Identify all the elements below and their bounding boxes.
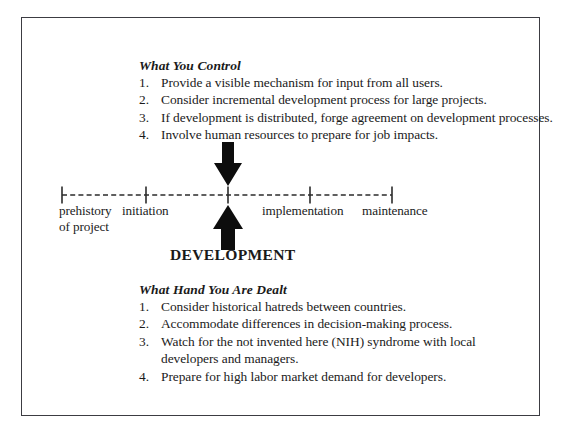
what-hand-you-are-dealt-block: What Hand You Are Dealt 1. Consider hist…	[139, 281, 561, 385]
what-you-control-heading: What You Control	[139, 57, 561, 74]
list-item-text: Involve human resources to prepare for j…	[161, 126, 561, 143]
list-item-text: Watch for the not invented here (NIH) sy…	[161, 333, 499, 368]
development-label: DEVELOPMENT	[170, 246, 295, 264]
list-item: 3. If development is distributed, forge …	[139, 109, 561, 126]
list-item-text: Consider historical hatreds between coun…	[161, 298, 561, 315]
what-hand-you-are-dealt-heading: What Hand You Are Dealt	[139, 281, 561, 298]
list-item-text: Provide a visible mechanism for input fr…	[161, 74, 561, 91]
list-item-text: Accommodate differences in decision-maki…	[161, 315, 561, 332]
timeline-label-prehistory-line2: of project	[59, 219, 111, 235]
list-item-number: 1.	[139, 74, 155, 91]
list-item: 4. Prepare for high labor market demand …	[139, 368, 561, 385]
what-hand-you-are-dealt-list: 1. Consider historical hatreds between c…	[139, 298, 561, 385]
timeline-label-maintenance-line1: maintenance	[362, 203, 428, 219]
timeline-label-prehistory: prehistory of project	[59, 203, 111, 234]
timeline-label-initiation: initiation	[122, 203, 169, 219]
what-you-control-list: 1. Provide a visible mechanism for input…	[139, 74, 561, 144]
list-item-number: 2.	[139, 91, 155, 108]
list-item-number: 1.	[139, 298, 155, 315]
list-item-number: 3.	[139, 333, 155, 350]
list-item: 3. Watch for the not invented here (NIH)…	[139, 333, 499, 368]
timeline-label-initiation-line1: initiation	[122, 203, 169, 219]
timeline-label-implementation-line1: implementation	[262, 203, 343, 219]
list-item: 4. Involve human resources to prepare fo…	[139, 126, 561, 143]
list-item: 2. Accommodate differences in decision-m…	[139, 315, 561, 332]
list-item: 1. Consider historical hatreds between c…	[139, 298, 561, 315]
list-item-number: 4.	[139, 126, 155, 143]
timeline-label-prehistory-line1: prehistory	[59, 203, 111, 219]
timeline-label-maintenance: maintenance	[362, 203, 428, 219]
list-item-number: 4.	[139, 368, 155, 385]
timeline-label-implementation: implementation	[262, 203, 343, 219]
figure-root: What You Control 1. Provide a visible me…	[0, 0, 561, 436]
list-item-number: 2.	[139, 315, 155, 332]
list-item-text: If development is distributed, forge agr…	[161, 109, 561, 126]
what-you-control-block: What You Control 1. Provide a visible me…	[139, 57, 561, 144]
list-item-text: Consider incremental development process…	[161, 91, 561, 108]
list-item-text: Prepare for high labor market demand for…	[161, 368, 561, 385]
list-item: 2. Consider incremental development proc…	[139, 91, 561, 108]
list-item: 1. Provide a visible mechanism for input…	[139, 74, 561, 91]
list-item-number: 3.	[139, 109, 155, 126]
